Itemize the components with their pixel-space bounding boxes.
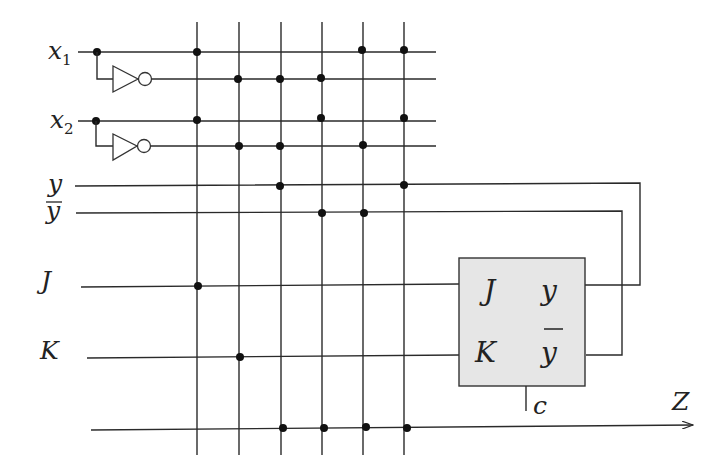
pla-circuit-diagram: x1 x2 y y J K Z J y K y c (0, 0, 728, 476)
connection-dot (276, 142, 284, 150)
label-K: K (39, 336, 60, 365)
connection-dot (358, 46, 366, 54)
label-x1: x1 (48, 36, 72, 69)
input-x2 (78, 117, 436, 160)
connection-dot (400, 181, 408, 189)
connection-dot (400, 46, 408, 54)
connection-dot (279, 424, 287, 432)
jk-flipflop (459, 258, 585, 411)
connection-dot (317, 74, 325, 82)
connection-dot (359, 141, 367, 149)
connection-dot (360, 209, 368, 217)
connection-dot (235, 142, 243, 150)
label-y: y (47, 169, 63, 198)
connection-dot (193, 116, 201, 124)
x1-branch-wire (97, 52, 113, 79)
input-x1 (78, 48, 436, 92)
label-x2: x2 (50, 105, 74, 138)
not-gate-icon (113, 134, 137, 160)
connection-dot (320, 424, 328, 432)
connection-dot (403, 424, 411, 432)
inverter-bubble-icon (139, 73, 152, 86)
connection-dots (193, 46, 411, 432)
connection-dot (317, 114, 325, 122)
ff-label-clock: c (533, 391, 547, 420)
ff-label-y: y (539, 274, 558, 307)
label-Z: Z (671, 387, 690, 416)
connection-dot (318, 209, 326, 217)
connection-dot (234, 75, 242, 83)
connection-dot (193, 48, 201, 56)
not-gate-icon (113, 66, 138, 92)
inverter-bubble-icon (138, 140, 151, 153)
ff-label-K: K (474, 336, 498, 369)
K-line (87, 355, 459, 358)
x2-branch-wire (96, 121, 113, 146)
J-line (81, 284, 459, 287)
product-lines (197, 22, 404, 455)
connection-dot (276, 75, 284, 83)
label-J: J (36, 266, 53, 295)
svg-text:y: y (45, 196, 61, 225)
Z-output-line (91, 425, 693, 430)
connection-dot (194, 282, 202, 290)
label-ybar: y (45, 196, 62, 225)
svg-text:y: y (539, 336, 558, 369)
connection-dot (400, 114, 408, 122)
connection-dot (236, 353, 244, 361)
connection-dot (276, 182, 284, 190)
connection-dot (362, 423, 370, 431)
